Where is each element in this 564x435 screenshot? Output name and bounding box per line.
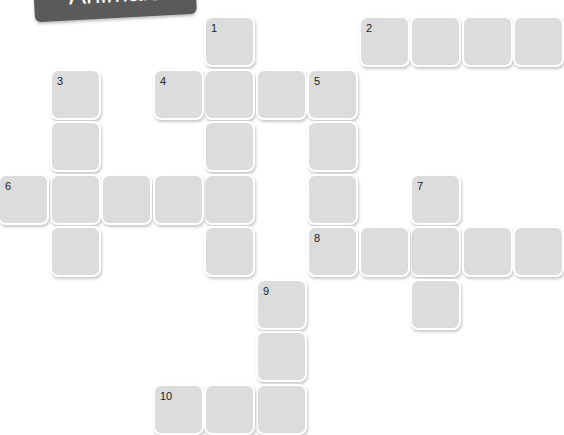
- crossword-cell[interactable]: 4: [153, 69, 204, 120]
- crossword-cell[interactable]: [153, 174, 204, 225]
- clue-number: 8: [314, 232, 320, 244]
- clue-number: 7: [417, 180, 423, 192]
- crossword-cell[interactable]: [513, 16, 564, 67]
- crossword-cell[interactable]: 6: [0, 174, 49, 225]
- clue-number: 1: [211, 22, 217, 34]
- crossword-cell[interactable]: [50, 121, 101, 172]
- crossword-cell[interactable]: 10: [153, 384, 204, 435]
- clue-number: 6: [5, 180, 11, 192]
- crossword-cell[interactable]: 5: [307, 69, 358, 120]
- crossword-cell[interactable]: [204, 121, 255, 172]
- crossword-cell[interactable]: 9: [256, 279, 307, 330]
- clue-number: 9: [263, 285, 269, 297]
- crossword-cell[interactable]: [462, 226, 513, 277]
- crossword-cell[interactable]: [462, 16, 513, 67]
- title-banner: Animals: [33, 0, 197, 22]
- clue-number: 3: [57, 75, 63, 87]
- crossword-cell[interactable]: [256, 69, 307, 120]
- crossword-cell[interactable]: [410, 16, 461, 67]
- crossword-cell[interactable]: 2: [359, 16, 410, 67]
- clue-number: 5: [314, 75, 320, 87]
- crossword-cell[interactable]: [410, 226, 461, 277]
- crossword-cell[interactable]: [204, 226, 255, 277]
- crossword-cell[interactable]: [410, 279, 461, 330]
- crossword-cell[interactable]: [307, 174, 358, 225]
- clue-number: 10: [160, 390, 172, 402]
- crossword-cell[interactable]: [204, 384, 255, 435]
- crossword-cell[interactable]: [359, 226, 410, 277]
- crossword-cell[interactable]: [307, 121, 358, 172]
- crossword-cell[interactable]: [513, 226, 564, 277]
- crossword-cell[interactable]: [50, 226, 101, 277]
- clue-number: 4: [160, 75, 166, 87]
- crossword-cell[interactable]: [256, 331, 307, 382]
- crossword-cell[interactable]: 1: [204, 16, 255, 67]
- crossword-cell[interactable]: [256, 384, 307, 435]
- crossword-cell[interactable]: [204, 69, 255, 120]
- clue-number: 2: [366, 22, 372, 34]
- crossword-cell[interactable]: 3: [50, 69, 101, 120]
- crossword-cell[interactable]: 8: [307, 226, 358, 277]
- crossword-cell[interactable]: [204, 174, 255, 225]
- crossword-cell[interactable]: [50, 174, 101, 225]
- crossword-cell[interactable]: [101, 174, 152, 225]
- crossword-cell[interactable]: 7: [410, 174, 461, 225]
